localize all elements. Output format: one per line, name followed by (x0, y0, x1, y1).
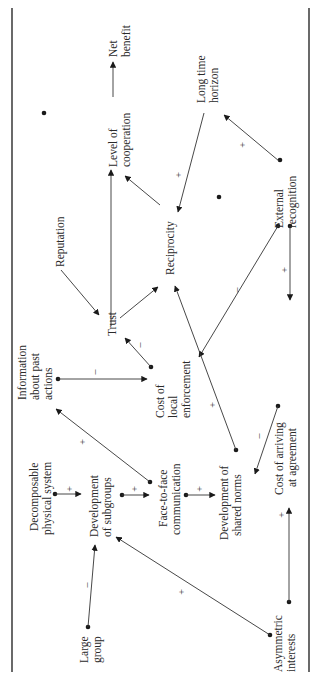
svg-text:–: – (89, 369, 100, 376)
svg-text:Level of: Level of (107, 128, 119, 167)
svg-text:interests: interests (285, 633, 297, 672)
svg-text:benefit: benefit (120, 24, 132, 57)
node-long-time-horizon: Long time horizon (195, 55, 220, 103)
svg-text:actions: actions (42, 367, 54, 400)
node-level-of-cooperation: Level of cooperation (107, 112, 133, 167)
svg-text:recognition: recognition (286, 175, 299, 228)
node-cost-of-arriving-at-agreement: Cost of arriving at agreement (273, 422, 299, 495)
svg-text:enforcement: enforcement (180, 360, 192, 418)
svg-text:physical system: physical system (41, 462, 54, 535)
svg-text:+: + (129, 486, 140, 492)
svg-text:about past: about past (29, 352, 42, 400)
edge-recognition-horizon (224, 115, 279, 161)
node-external-recognition: External recognition (273, 175, 299, 228)
node-asymmetric-interests: Asymmetric interests (272, 615, 297, 672)
stray-dot (217, 195, 222, 200)
svg-text:–: – (134, 342, 145, 349)
svg-text:horizon: horizon (208, 68, 220, 103)
node-development-of-subgroups: Development of subgroups (88, 474, 114, 537)
svg-text:Face-to-face: Face-to-face (157, 470, 169, 527)
svg-text:cooperation: cooperation (120, 112, 133, 167)
svg-text:Asymmetric: Asymmetric (272, 615, 285, 672)
svg-text:Cost of arriving: Cost of arriving (273, 422, 286, 495)
svg-text:group: group (91, 636, 104, 663)
node-net-benefit: Net benefit (107, 24, 132, 57)
svg-text:+: + (194, 486, 205, 492)
svg-text:+: + (276, 512, 287, 518)
svg-text:Net: Net (107, 40, 119, 57)
node-reputation: Reputation (54, 216, 67, 267)
node-decomposable-physical-system: Decomposable physical system (28, 462, 54, 535)
edge-f2f-info (56, 409, 150, 482)
svg-text:+: + (207, 402, 218, 408)
svg-text:+: + (176, 589, 187, 595)
svg-text:Reputation: Reputation (54, 216, 67, 267)
svg-text:of subgroups: of subgroups (101, 477, 114, 537)
edge-reputation-trust (61, 270, 99, 315)
svg-text:Decomposable: Decomposable (28, 463, 41, 531)
svg-text:Reciprocity: Reciprocity (164, 221, 177, 275)
edge-trust-reciprocity (120, 287, 158, 318)
svg-text:Development of: Development of (218, 465, 231, 540)
node-large-group: Large group (78, 636, 104, 663)
svg-text:External: External (273, 189, 285, 228)
svg-text:+: + (279, 267, 290, 273)
node-information-about-past-actions: Information about past actions (16, 345, 54, 400)
svg-text:communication: communication (170, 463, 182, 535)
svg-text:Information: Information (16, 345, 28, 400)
svg-text:–: – (81, 582, 92, 589)
node-trust: Trust (106, 311, 118, 336)
node-reciprocity: Reciprocity (164, 221, 177, 275)
svg-text:Trust: Trust (106, 311, 118, 336)
node-face-to-face-communication: Face-to-face communication (157, 463, 182, 535)
edge-enforcement-trust (125, 338, 151, 367)
svg-text:local: local (167, 396, 179, 418)
edge-reciprocity-cooperation (125, 176, 160, 205)
svg-text:Long time: Long time (195, 55, 208, 103)
svg-text:+: + (173, 172, 184, 178)
svg-text:–: – (231, 287, 242, 294)
svg-text:–: – (253, 433, 264, 440)
svg-text:shared norms: shared norms (231, 474, 243, 536)
svg-text:Large: Large (78, 636, 91, 663)
node-development-of-shared-norms: Development of shared norms (218, 465, 243, 540)
svg-text:Development: Development (88, 474, 101, 537)
edge-horizon-reciprocity (178, 113, 204, 212)
causal-diagram: + + – + – – + + + + + – – + + Net benefi… (0, 0, 320, 690)
node-dot (42, 111, 47, 116)
node-cost-of-local-enforcement: Cost of local enforcement (154, 360, 192, 418)
svg-text:+: + (64, 486, 75, 492)
svg-text:+: + (237, 142, 248, 148)
edge-asymmetric-subgroups (116, 537, 270, 635)
svg-text:Cost of: Cost of (154, 384, 166, 418)
svg-text:at agreement: at agreement (286, 427, 299, 487)
svg-text:+: + (77, 439, 88, 445)
